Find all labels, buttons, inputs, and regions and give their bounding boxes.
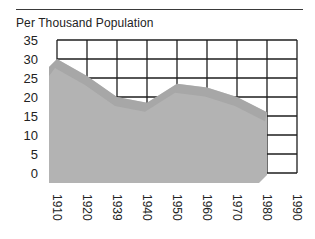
y-tick-label: 15 bbox=[24, 109, 38, 124]
y-tick-label: 20 bbox=[24, 90, 38, 105]
y-tick-label: 35 bbox=[24, 33, 38, 48]
x-axis-labels: 191019201939194019501960197019801990 bbox=[50, 194, 304, 221]
x-tick-label: 1950 bbox=[170, 194, 184, 221]
x-tick-label: 1940 bbox=[140, 194, 154, 221]
x-tick-label: 1939 bbox=[110, 194, 124, 221]
y-tick-label: 25 bbox=[24, 71, 38, 86]
x-tick-label: 1980 bbox=[260, 194, 274, 221]
area-chart: 35302520151050 1910192019391940195019601… bbox=[0, 0, 315, 239]
x-tick-label: 1990 bbox=[290, 194, 304, 221]
y-tick-label: 5 bbox=[31, 147, 38, 162]
x-tick-label: 1960 bbox=[200, 194, 214, 221]
y-axis-labels: 35302520151050 bbox=[24, 33, 38, 181]
x-tick-label: 1970 bbox=[230, 194, 244, 221]
y-tick-label: 30 bbox=[24, 52, 38, 67]
x-tick-label: 1910 bbox=[50, 194, 64, 221]
y-tick-label: 10 bbox=[24, 128, 38, 143]
y-tick-label: 0 bbox=[31, 166, 38, 181]
x-tick-label: 1920 bbox=[80, 194, 94, 221]
